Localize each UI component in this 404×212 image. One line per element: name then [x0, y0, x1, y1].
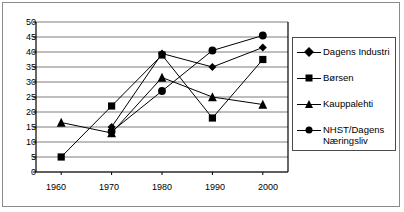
legend-item-kauppalehti: Kauppalehti [297, 98, 373, 110]
legend-item-nhst-dagens-naeringsliv: NHST/Dagens Næringsliv [297, 124, 384, 146]
data-point [158, 51, 165, 58]
data-point [108, 102, 115, 109]
data-point [58, 153, 65, 160]
legend-marker-circle-icon [297, 125, 321, 136]
legend-label-nhst-dagens-naeringsliv: NHST/Dagens Næringsliv [323, 124, 384, 146]
legend-marker-square-icon [297, 73, 321, 84]
legend-marker-triangle-icon [297, 99, 321, 110]
legend-item-dagens-industri: Dagens Industri [297, 46, 390, 58]
data-point [259, 56, 266, 63]
data-point [259, 32, 267, 40]
legend-marker-diamond-icon [297, 47, 321, 58]
legend-label-dagens-industri: Dagens Industri [323, 46, 390, 57]
legend-label-kauppalehti: Kauppalehti [323, 98, 373, 109]
gridlines [36, 22, 288, 172]
data-point [158, 73, 167, 82]
data-point [108, 128, 116, 136]
data-point [259, 44, 267, 52]
legend-label-nhst-line1: NHST/Dagens [323, 124, 384, 135]
chart-legend: Dagens Industri Børsen Kauppalehti NHST/… [292, 37, 396, 151]
series-b-rsen [58, 51, 267, 160]
data-point [209, 114, 216, 121]
data-point [158, 87, 166, 95]
data-point [209, 47, 217, 55]
series-nhst-dagens-n-ringsliv [108, 32, 267, 136]
legend-label-borsen: Børsen [323, 72, 354, 83]
legend-item-borsen: Børsen [297, 72, 354, 84]
legend-label-nhst-line2: Næringsliv [323, 135, 368, 146]
series-line [61, 78, 263, 134]
chart-figure: 50 45 40 35 30 25 20 15 10 5 0 1960 1970… [0, 0, 404, 212]
data-point [57, 118, 66, 127]
data-point [208, 63, 216, 71]
